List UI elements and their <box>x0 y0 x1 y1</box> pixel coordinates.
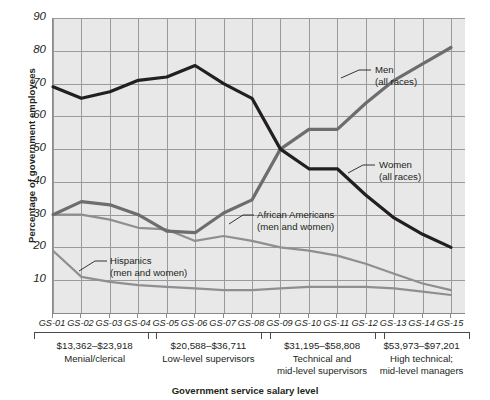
y-tick-50: 50 <box>20 141 46 153</box>
salary-range: $20,588–$36,711 <box>148 340 269 353</box>
group-bracket <box>34 332 157 339</box>
group-bracket <box>375 332 470 339</box>
y-tick-60: 60 <box>20 108 46 120</box>
salary-group: $53,973–$97,201High technical;mid-level … <box>375 340 468 378</box>
salary-group: $31,195–$58,808Technical andmid-level su… <box>261 340 382 378</box>
y-tick-80: 80 <box>20 43 46 55</box>
salary-role-line2: mid-level managers <box>375 365 468 378</box>
y-tick-10: 10 <box>20 272 46 284</box>
chart-figure: Percentage of government employees 90807… <box>0 0 490 400</box>
x-axis-title: Government service salary level <box>0 385 490 396</box>
annotation-hispanics-line1: Hispanics <box>110 255 187 267</box>
y-tick-30: 30 <box>20 207 46 219</box>
annotation-african-americans-line2: (men and women) <box>257 221 334 233</box>
annotation-men-line1: Men <box>375 64 417 76</box>
annotation-men-line2: (all races) <box>375 76 417 88</box>
salary-role-line2: mid-level supervisors <box>261 365 382 378</box>
group-bracket <box>261 332 384 339</box>
salary-role-line1: Technical and <box>261 353 382 366</box>
plot-area: Men (all races) Women (all races) Africa… <box>52 18 465 314</box>
annotation-hispanics-line2: (men and women) <box>110 267 187 279</box>
salary-range: $31,195–$58,808 <box>261 340 382 353</box>
salary-role-line1: Low-level supervisors <box>148 353 269 366</box>
annotation-african-americans: African Americans (men and women) <box>257 209 334 232</box>
y-tick-40: 40 <box>20 174 46 186</box>
annotation-women: Women (all races) <box>379 159 421 182</box>
salary-range: $13,362–$23,918 <box>34 340 155 353</box>
y-tick-90: 90 <box>20 10 46 22</box>
salary-role-line1: Menial/clerical <box>34 353 155 366</box>
salary-group: $13,362–$23,918Menial/clerical <box>34 340 155 365</box>
y-tick-70: 70 <box>20 76 46 88</box>
y-tick-20: 20 <box>20 239 46 251</box>
salary-group: $20,588–$36,711Low-level supervisors <box>148 340 269 365</box>
annotation-women-line2: (all races) <box>379 171 421 183</box>
salary-role-line1: High technical; <box>375 353 468 366</box>
annotation-hispanics: Hispanics (men and women) <box>110 255 187 278</box>
salary-range: $53,973–$97,201 <box>375 340 468 353</box>
group-bracket <box>148 332 271 339</box>
annotation-women-line1: Women <box>379 159 421 171</box>
annotation-men: Men (all races) <box>375 64 417 87</box>
x-tick-gs-15: GS-15 <box>428 318 472 328</box>
annotation-african-americans-line1: African Americans <box>257 209 334 221</box>
